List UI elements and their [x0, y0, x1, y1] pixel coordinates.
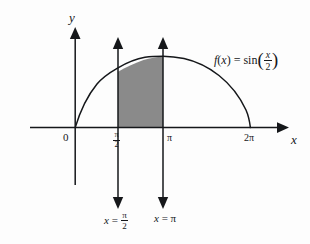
left-paren-icon: (: [257, 51, 263, 70]
y-axis-arrowhead: [70, 27, 81, 39]
vline1-equals: =: [112, 214, 118, 226]
vertical-line-pi-arrow-top: [158, 37, 168, 49]
right-paren-icon: ): [272, 51, 278, 70]
vline2-variable: x: [154, 212, 159, 224]
pi-over-2-fraction: π 2: [113, 131, 119, 150]
vertical-line-pi-over-2-arrow-bottom: [113, 197, 123, 209]
y-axis-label: y: [69, 11, 75, 24]
x-over-2-denominator: 2: [264, 61, 271, 72]
vline2-equals: =: [162, 212, 168, 224]
x-tick-origin: 0: [63, 132, 69, 143]
vertical-line-pi-over-2-arrow-top: [113, 37, 123, 49]
x-tick-two-pi: 2π: [244, 133, 254, 143]
x-axis-arrowhead: [277, 122, 289, 133]
vline1-variable: x: [104, 214, 109, 226]
figure-canvas: [0, 0, 310, 244]
label-x-equals-pi-over-2: x = π 2: [104, 211, 128, 231]
vertical-line-pi-arrow-bottom: [158, 197, 168, 209]
shaded-region: [118, 57, 163, 128]
sine-integral-figure: y x 0 π 2 π 2π f(x) = sin( x 2 ) x = π 2…: [0, 0, 310, 244]
function-equation-label: f(x) = sin( x 2 ): [214, 50, 278, 72]
pi-over-2-denominator: 2: [113, 141, 119, 150]
vline1-numerator: π: [121, 211, 128, 222]
function-equals: =: [234, 53, 241, 67]
function-arg-close: ): [227, 53, 231, 67]
label-x-equals-pi: x = π: [154, 213, 176, 224]
vline1-denominator: 2: [121, 221, 128, 231]
vline1-fraction: π 2: [121, 211, 128, 231]
sine-operator: sin: [243, 53, 257, 67]
x-tick-pi-over-2: π 2: [113, 131, 120, 150]
x-axis-label: x: [291, 133, 297, 146]
vline2-value: π: [171, 212, 177, 224]
x-tick-pi: π: [167, 133, 172, 143]
x-over-2-fraction: x 2: [264, 50, 271, 72]
x-over-2-numerator: x: [264, 50, 271, 62]
